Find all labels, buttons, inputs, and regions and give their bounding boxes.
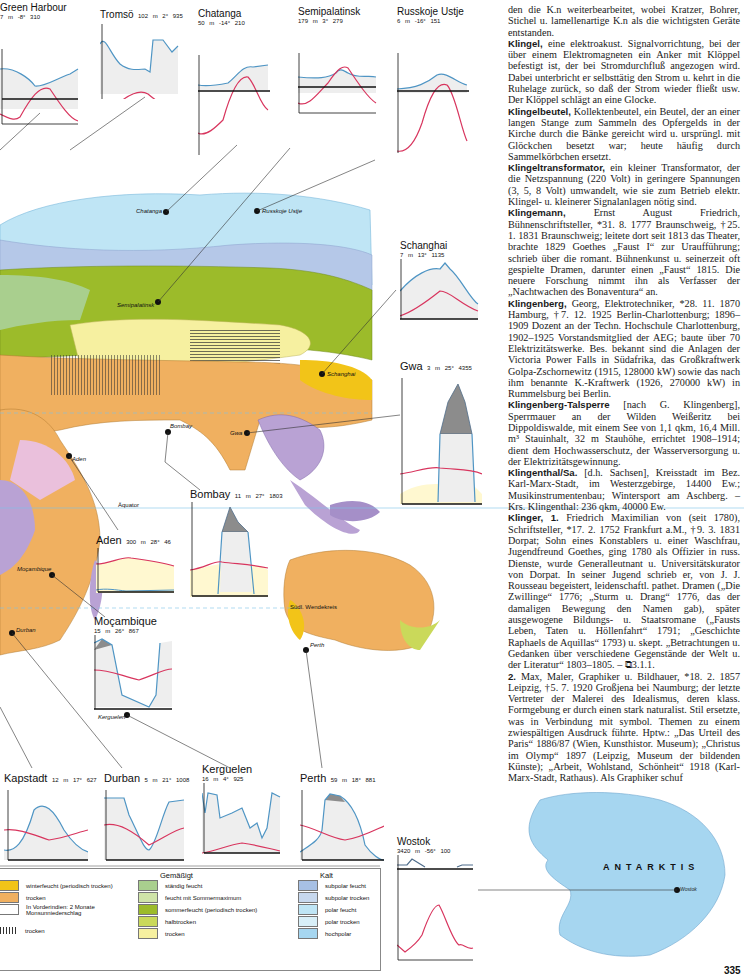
chart-meta: 7 m -8° 310 <box>0 13 82 21</box>
chart-plot <box>397 855 475 965</box>
article-column: den die K.n weiterbearbeitet, wobei Krat… <box>508 4 740 783</box>
climate-chart-green-harbour: Green Harbour 7 m -8° 310 <box>0 2 82 144</box>
legend-item: trocken <box>0 927 45 934</box>
legend-item: halbtrocken <box>138 916 196 927</box>
article-entry-klingenberg: Klingenberg, Georg, Elektrotechniker, *2… <box>508 298 740 400</box>
climate-chart-gwa: Gwa 3 m 25° 4355 <box>400 356 482 514</box>
chart-plot <box>0 49 82 144</box>
article-entry-klinger-2: 2. Max, Maler, Graphiker u. Bildhauer, *… <box>508 671 740 784</box>
chart-meta: 50 m -14° 210 <box>198 19 270 27</box>
legend-item: In Vorderindien: 2 Monate Monsunniedersc… <box>0 904 116 916</box>
article-entry-klingemann: Klingemann, Ernst August Friedrich, Bühn… <box>508 207 740 297</box>
article-entry-klingeltransformator: Klingeltransformator, ein kleiner Transf… <box>508 162 740 207</box>
legend-item: polar feucht <box>298 904 356 915</box>
chart-plot <box>96 548 176 598</box>
chart-plot <box>298 53 378 133</box>
map-label-kerguelen: Kerguelen <box>98 714 125 720</box>
chart-meta: 300 m 28° 46 <box>126 539 171 545</box>
chart-title: Russkoje Ustje <box>397 6 469 17</box>
climate-chart-russkoje-ustje: Russkoje Ustje 6 m -16° 151 <box>397 6 469 158</box>
chart-plot <box>400 374 482 514</box>
article-paragraph: den die K.n weiterbearbeitet, wobei Krat… <box>508 4 740 38</box>
chart-title: Aden <box>96 534 122 546</box>
climate-chart-semipalatinsk: Semipalatinsk 179 m 3° 279 <box>298 6 378 133</box>
map-label-russkoje: Russkoje Ustje <box>262 208 302 214</box>
chart-plot <box>4 790 88 870</box>
legend-item: sommerfeucht (periodisch trocken) <box>138 904 257 915</box>
legend-item: winterfeucht (periodisch trocken) <box>0 880 113 891</box>
page-number: 335 <box>724 965 741 975</box>
chart-plot <box>300 790 384 870</box>
chart-plot <box>94 635 174 713</box>
chart-plot <box>397 53 469 158</box>
chart-title: Kerguelen <box>202 764 282 775</box>
map-label-antarktis: ANTARKTIS <box>603 862 699 872</box>
legend-item: trocken <box>0 892 46 903</box>
legend-item: ständig feucht <box>138 880 202 891</box>
climate-chart-chatanga: Chatanga 50 m -14° 210 <box>198 8 270 165</box>
article-entry-klingel: Klingel, eine elektroakust. Signalvorric… <box>508 38 740 106</box>
chart-title: Moçambique <box>94 616 174 627</box>
climate-chart-kapstadt: Kapstadt 12 m 17° 627 <box>4 768 97 870</box>
chart-plot <box>190 502 270 602</box>
chart-meta: 102 m 2° 935 <box>138 13 183 19</box>
chart-title: Perth <box>300 772 326 784</box>
chart-meta: 3420 m -56° 100 <box>397 847 475 855</box>
chart-plot <box>100 24 180 99</box>
legend-item: hochpolar <box>298 928 351 939</box>
legend-item: feucht mit Sommermaximum <box>138 892 241 903</box>
legend-item: polar trocken <box>298 916 360 927</box>
map-label-perth: Perth <box>310 642 324 648</box>
map-label-mocambique: Moçambique <box>17 566 51 572</box>
climate-chart-mocambique: Moçambique 15 m 26° 867 <box>94 616 174 713</box>
article-entry-klinger-1: Klinger, 1. Friedrich Maximilian von (se… <box>508 512 740 670</box>
map-label-chatanga: Chatanga <box>136 208 162 214</box>
climate-chart-bombay: Bombay 11 m 27° 1803 <box>190 484 283 602</box>
article-entry-klingenberg-talsperre: Klingenberg-Talsperre [nach G. Klingenbe… <box>508 399 740 467</box>
map-label-semipalatinsk: Semipalatinsk <box>117 302 154 308</box>
climate-chart-perth: Perth 59 m 18° 881 <box>300 768 384 870</box>
map-label-aden: Aden <box>72 456 86 462</box>
chart-meta: 5 m 21° 1008 <box>145 777 190 783</box>
climate-chart-wostok: Wostok 3420 m -56° 100 <box>397 836 475 965</box>
legend-heading-cold: Kalt <box>320 871 333 880</box>
map-label-wostok: Wostok <box>680 886 697 892</box>
map-legend: winterfeucht (periodisch trocken) trocke… <box>0 868 381 971</box>
chart-title: Durban <box>104 772 140 784</box>
chart-title: Tromsö <box>100 9 134 20</box>
chart-meta: 15 m 26° 867 <box>94 627 174 635</box>
map-label-bombay: Bombay <box>170 423 192 429</box>
chart-meta: 11 m 27° 1803 <box>235 493 283 499</box>
map-label-equator: Äquator <box>118 502 139 508</box>
chart-plot <box>198 55 270 165</box>
chart-meta: 179 m 3° 279 <box>298 17 378 25</box>
climate-chart-durban: Durban 5 m 21° 1008 <box>104 768 189 870</box>
chart-title: Semipalatinsk <box>298 6 378 17</box>
climate-chart-aden: Aden 300 m 28° 46 <box>96 530 176 598</box>
chart-title: Green Harbour <box>0 2 82 13</box>
chart-title: Wostok <box>397 836 475 847</box>
chart-title: Schanghai <box>400 240 480 251</box>
article-entry-klingenthal: Klingenthal/Sa. [d.h. Sachsen], Kreissta… <box>508 467 740 512</box>
map-label-durban: Durban <box>16 627 36 633</box>
map-label-schanghai: Schanghai <box>327 371 355 377</box>
chart-plot <box>202 783 282 859</box>
chart-meta: 6 m -16° 151 <box>397 17 469 25</box>
climate-chart-schanghai: Schanghai 7 m 13° 1135 <box>400 240 480 329</box>
legend-item: subpolar trocken <box>298 892 369 903</box>
map-label-gwa: Gwa <box>230 430 242 436</box>
chart-title: Gwa <box>400 360 423 372</box>
article-entry-klingelbeutel: Klingelbeutel, Kollektenbeutel, ein Beut… <box>508 106 740 162</box>
chart-meta: 12 m 17° 627 <box>52 777 97 783</box>
chart-plot <box>400 259 480 329</box>
climate-chart-kerguelen: Kerguelen 16 m 4° 925 <box>202 764 282 859</box>
chart-plot <box>104 790 188 870</box>
chart-title: Chatanga <box>198 8 270 19</box>
chart-title: Kapstadt <box>4 772 47 784</box>
chart-meta: 7 m 13° 1135 <box>400 251 480 259</box>
climate-chart-tromsoe: Tromsö 102 m 2° 935 <box>100 4 183 99</box>
legend-item: trocken <box>138 928 185 939</box>
legend-heading-temperate: Gemäßigt <box>160 871 193 880</box>
chart-title: Bombay <box>190 488 230 500</box>
legend-item: subpolar feucht <box>298 880 366 891</box>
